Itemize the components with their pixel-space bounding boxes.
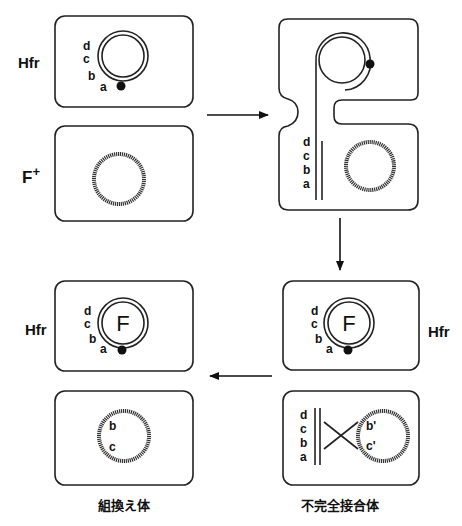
gene-b: b	[89, 332, 96, 346]
gene-d: d	[84, 304, 91, 318]
gene-a: a	[100, 342, 107, 356]
hfr-label-bottom-left: Hfr	[25, 321, 47, 338]
gene-a: a	[326, 342, 333, 356]
fplus-label: F+	[22, 164, 40, 187]
hfr-cell-after-left: F d c b a	[55, 281, 193, 371]
gene-d: d	[303, 135, 310, 149]
partial-zygote-caption: 不完全接合体	[301, 498, 380, 513]
plasmid-f-label: F	[116, 311, 129, 336]
conjugating-pair: d c b a	[279, 19, 418, 210]
gene-a: a	[303, 177, 310, 191]
gene-c: c	[303, 149, 310, 163]
plasmid-f-label: F	[342, 311, 355, 336]
hfr-cell-top: d c b a	[55, 16, 193, 107]
gene-c: c	[84, 317, 91, 331]
origin-dot-icon	[366, 60, 375, 69]
donor-chromosome-inner	[319, 37, 365, 83]
chromosome-inner-strand	[102, 35, 144, 77]
origin-dot-icon	[117, 82, 126, 91]
hfr-label-top: Hfr	[18, 54, 40, 71]
partial-zygote-cell: d c b a b' c'	[283, 391, 419, 485]
recipient-chromosome	[94, 154, 144, 204]
gene-d: d	[300, 408, 307, 422]
gene-b: b	[109, 419, 116, 433]
gene-b: b	[88, 69, 95, 83]
cell-outline	[55, 126, 193, 221]
gene-a: a	[300, 450, 307, 464]
gene-d: d	[83, 39, 90, 53]
donor-chromosome-outer-arc	[316, 33, 371, 90]
hfr-label-bottom-right: Hfr	[428, 323, 450, 340]
diagram-canvas: d c b a Hfr F+ d c b a F d c b a	[0, 0, 462, 526]
recombinant-caption: 組換え体	[98, 498, 151, 513]
origin-dot-icon	[118, 346, 127, 355]
gene-b: b	[315, 332, 322, 346]
hfr-cell-after-right: F d c b a	[283, 281, 419, 370]
origin-dot-icon	[344, 346, 353, 355]
gene-c: c	[83, 52, 90, 66]
gene-a: a	[100, 80, 107, 94]
conjugating-cells-outline	[279, 19, 418, 210]
recombinant-cell: b c	[55, 391, 193, 485]
cell-outline	[55, 16, 193, 107]
gene-d: d	[311, 304, 318, 318]
gene-c-prime: c'	[366, 439, 376, 453]
chromosome-outer-strand	[98, 31, 148, 81]
gene-c: c	[109, 440, 116, 454]
gene-c: c	[311, 317, 318, 331]
recombinant-chromosome	[99, 411, 149, 461]
gene-b: b	[300, 436, 307, 450]
recipient-chromosome	[346, 142, 394, 190]
gene-b: b	[303, 163, 310, 177]
cell-outline	[55, 391, 193, 485]
fplus-cell	[55, 126, 193, 221]
gene-b-prime: b'	[366, 419, 376, 433]
gene-c: c	[300, 422, 307, 436]
